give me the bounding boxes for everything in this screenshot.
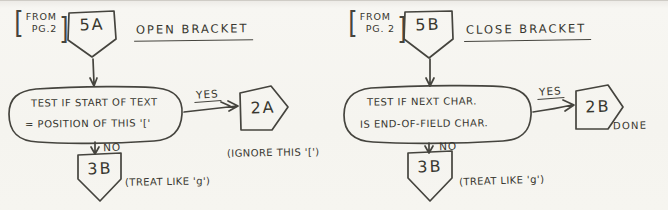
open-bracket-glyph: [ xyxy=(348,8,357,38)
test-box-line1: TEST IF NEXT CHAR. xyxy=(367,95,477,107)
yes-branch-label: YES xyxy=(537,84,565,100)
yes-arrow-left xyxy=(184,101,238,112)
open-bracket-glyph: [ xyxy=(14,8,23,38)
yes-branch-label: YES xyxy=(194,87,222,103)
section-title: OPEN BRACKET xyxy=(134,21,254,42)
yes-connector-label: 2B xyxy=(578,96,619,116)
from-note-line1: FROM xyxy=(26,11,57,22)
scanned-flowchart-page: [ FROM PG.2 ] 5A OPEN BRACKET TEST IF ST… xyxy=(0,0,668,210)
yes-arrow-right xyxy=(533,100,574,112)
from-note-line2: PG.2 xyxy=(32,23,57,34)
yes-connector-label: 2A xyxy=(243,97,284,117)
flow-arrow-entry-right xyxy=(426,59,434,86)
test-box-line2: = POSITION OF THIS '[' xyxy=(25,117,151,129)
no-branch-label: NO xyxy=(437,140,460,154)
test-box-line2: IS END-OF-FIELD CHAR. xyxy=(360,117,488,129)
close-bracket-glyph: ] xyxy=(59,14,68,44)
flow-arrow-entry-left xyxy=(90,59,97,86)
no-connector-label: 3B xyxy=(410,156,451,176)
yes-branch-note: DONE xyxy=(613,120,647,132)
no-connector-label: 3B xyxy=(80,158,121,178)
test-box-shape-left xyxy=(9,87,182,144)
test-box-shape-right xyxy=(344,86,531,144)
section-title: CLOSE BRACKET xyxy=(464,21,592,42)
no-branch-label: NO xyxy=(101,141,124,155)
from-page-note: [ FROM PG.2 ] xyxy=(13,8,70,44)
entry-connector-label: 5B xyxy=(406,14,451,35)
from-note-line1: FROM xyxy=(360,11,395,22)
from-page-note: [ FROM PG. 2 ] xyxy=(347,8,408,44)
test-box-line1: TEST IF START OF TEXT xyxy=(31,96,158,108)
from-note-line2: PG. 2 xyxy=(366,23,395,34)
no-branch-note: (TREAT LIKE 'g') xyxy=(125,175,211,187)
entry-connector-label: 5A xyxy=(70,14,115,35)
yes-branch-note: (IGNORE THIS '[') xyxy=(227,146,320,159)
